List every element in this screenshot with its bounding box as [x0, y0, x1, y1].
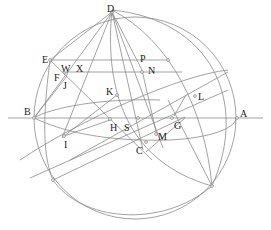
point-lowleft	[52, 179, 55, 182]
point-a	[236, 117, 239, 120]
point-m	[155, 133, 158, 136]
label-j: J	[63, 80, 67, 91]
label-b: B	[24, 106, 31, 117]
line-g-bottom	[168, 100, 212, 186]
label-s: S	[124, 122, 130, 133]
lower-arc	[53, 180, 212, 215]
meridian-arc-2	[112, 10, 212, 186]
label-x: X	[76, 63, 84, 74]
label-e: E	[42, 54, 48, 65]
label-m: M	[158, 131, 167, 142]
point-s	[137, 117, 140, 120]
point-c	[145, 141, 148, 144]
point-g	[171, 117, 174, 120]
label-h: H	[110, 122, 117, 133]
label-p: P	[140, 53, 146, 64]
point-n	[141, 71, 144, 74]
label-w: W	[61, 63, 71, 74]
label-k: K	[106, 86, 114, 97]
line-lowleft-g	[53, 117, 185, 180]
label-d: D	[107, 3, 114, 14]
line-n-m	[142, 70, 157, 136]
line-i-h	[64, 120, 110, 136]
point-l	[194, 95, 197, 98]
label-g: G	[174, 120, 181, 131]
point-h	[109, 118, 112, 121]
label-n: N	[148, 65, 155, 76]
line-d-n	[112, 12, 142, 70]
line-lowleft-l	[30, 90, 228, 178]
point-lowright	[211, 185, 214, 188]
label-f: F	[54, 72, 60, 83]
meridian-arc-3	[111, 10, 212, 186]
line-l-g	[174, 95, 186, 116]
meridian-arc-left	[45, 60, 53, 180]
equator-back	[34, 100, 160, 118]
label-a: A	[240, 108, 248, 119]
point-k	[116, 94, 119, 97]
point-b	[33, 117, 36, 120]
line-nl	[70, 72, 228, 160]
geometry-diagram: D E W X F J P N K L B A H S G M C I	[0, 0, 271, 230]
point-e	[49, 59, 52, 62]
label-l: L	[198, 91, 204, 102]
point-p	[167, 59, 170, 62]
point-i	[63, 135, 66, 138]
label-c: C	[136, 145, 143, 156]
label-i: I	[64, 139, 67, 150]
